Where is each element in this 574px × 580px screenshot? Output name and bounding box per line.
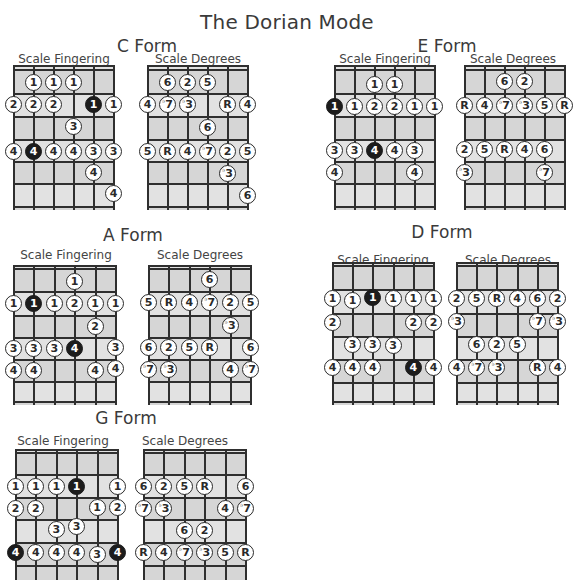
- marker-label: 5: [513, 339, 521, 350]
- finger-number-marker: 1: [109, 478, 126, 495]
- scale-degree-marker: 5: [509, 336, 526, 353]
- fret-line: [13, 161, 115, 163]
- fret-line: [15, 452, 119, 454]
- marker-label: 4: [329, 362, 337, 373]
- fret-line: [334, 139, 436, 141]
- marker-label: 7: [475, 362, 483, 373]
- marker-label: R: [163, 146, 171, 157]
- finger-number-marker: 4: [386, 142, 403, 159]
- finger-number-marker: 2: [87, 318, 104, 335]
- marker-label: 1: [90, 99, 98, 110]
- marker-label: 5: [144, 146, 152, 157]
- marker-label: 3: [331, 145, 339, 156]
- scale-degree-marker: 6: [176, 522, 193, 539]
- finger-number-marker: 1: [46, 295, 63, 312]
- finger-number-marker: 1: [425, 290, 442, 307]
- fret-band: [149, 382, 251, 402]
- string-line: [95, 266, 97, 405]
- marker-label: 1: [411, 101, 419, 112]
- finger-number-marker: 2: [25, 96, 42, 113]
- scale-degree-marker: R: [237, 544, 254, 561]
- finger-number-marker: 1: [324, 290, 341, 307]
- scale-degree-marker: R: [456, 97, 473, 114]
- finger-number-marker: 1: [406, 98, 423, 115]
- marker-label: 3: [349, 339, 357, 350]
- fret-line: [13, 401, 117, 403]
- scale-degree-marker: R: [159, 143, 176, 160]
- finger-number-marker: 3: [385, 337, 402, 354]
- string-line: [93, 66, 95, 210]
- flat-sign-icon: ♭: [222, 167, 225, 174]
- scale-degree-marker: 5: [139, 143, 156, 160]
- fret-line: [332, 313, 435, 315]
- fret-line: [13, 381, 117, 383]
- marker-label: 2: [224, 146, 232, 157]
- scale-degree-marker: 5: [199, 74, 216, 91]
- marker-label: 4: [70, 146, 78, 157]
- flat-sign-icon: ♭: [491, 361, 494, 368]
- fret-line: [147, 161, 249, 163]
- flat-sign-icon: ♭: [179, 546, 182, 553]
- marker-label: 4: [554, 362, 562, 373]
- degrees-fretboard: [465, 66, 565, 210]
- finger-number-marker: 4: [85, 164, 102, 181]
- finger-number-marker: 2: [386, 98, 403, 115]
- fret-line: [464, 183, 566, 185]
- fret-line: [143, 452, 247, 454]
- scale-degree-marker: 4: [516, 141, 533, 158]
- marker-label: 3: [203, 547, 211, 558]
- finger-number-marker: 3: [89, 546, 106, 563]
- fret-line: [464, 93, 566, 95]
- marker-label: 2: [10, 99, 18, 110]
- scale-degree-marker: 6: [237, 478, 254, 495]
- form-title: A Form: [103, 225, 163, 245]
- fret-line: [332, 265, 435, 267]
- fret-line: [148, 337, 252, 339]
- finger-number-marker: 1: [7, 478, 24, 495]
- scale-degree-marker: 6: [199, 119, 216, 136]
- scale-degree-marker: 2: [549, 290, 566, 307]
- marker-label: 7: [535, 316, 543, 327]
- finger-number-marker: 4: [45, 143, 62, 160]
- fret-line: [143, 474, 247, 476]
- scale-degree-marker: 6: [140, 339, 157, 356]
- scale-degree-marker: 4: [509, 290, 526, 307]
- fret-line: [456, 382, 559, 384]
- flat-sign-icon: ♭: [539, 166, 542, 173]
- string-line: [13, 266, 15, 405]
- scale-degree-marker: 2: [448, 290, 465, 307]
- marker-label: 3: [167, 364, 175, 375]
- page-title: The Dorian Mode: [0, 10, 574, 34]
- finger-number-marker: 3: [326, 142, 343, 159]
- marker-label: 1: [10, 298, 18, 309]
- marker-label: R: [460, 100, 468, 111]
- finger-number-marker: 1: [366, 76, 383, 93]
- finger-number-marker: 4: [366, 142, 383, 159]
- finger-number-marker: 1: [25, 74, 42, 91]
- scale-degree-marker: 4: [448, 359, 465, 376]
- fret-line: [332, 382, 435, 384]
- marker-label: 4: [91, 365, 99, 376]
- fret-line: [148, 265, 252, 267]
- marker-label: 3: [389, 340, 397, 351]
- marker-label: 7: [502, 100, 510, 111]
- string-line: [414, 66, 416, 210]
- marker-label: 5: [481, 144, 489, 155]
- marker-label: 3: [30, 343, 38, 354]
- marker-label: R: [165, 297, 173, 308]
- marker-label: 1: [50, 298, 58, 309]
- marker-label: 4: [409, 362, 417, 373]
- fingering-fretboard: [333, 263, 434, 405]
- scale-degree-marker: 5: [217, 544, 234, 561]
- fret-line: [147, 93, 249, 95]
- flat-sign-icon: ♭: [182, 98, 185, 105]
- degrees-fretboard: [457, 263, 558, 405]
- marker-label: 6: [204, 122, 212, 133]
- marker-label: 1: [369, 292, 377, 303]
- finger-number-marker: 4: [324, 359, 341, 376]
- fret-line: [334, 69, 436, 71]
- fret-line: [147, 116, 249, 118]
- finger-number-marker: 4: [65, 143, 82, 160]
- scale-degree-marker: 6: [242, 339, 259, 356]
- finger-number-marker: 1: [87, 295, 104, 312]
